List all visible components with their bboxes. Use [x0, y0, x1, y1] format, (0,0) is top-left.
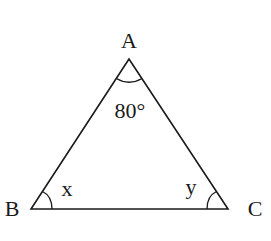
triangle-diagram: A B C 80° x y [0, 0, 271, 241]
vertex-label-c: C [248, 196, 263, 221]
angle-label-b: x [62, 176, 73, 201]
angle-arc-a [117, 79, 143, 83]
angle-label-a: 80° [115, 98, 146, 123]
angle-label-c: y [186, 174, 197, 199]
angle-arc-c [207, 192, 217, 210]
triangle-svg: A B C 80° x y [0, 0, 271, 241]
vertex-label-b: B [5, 196, 20, 221]
angle-arc-b [43, 192, 53, 210]
vertex-label-a: A [121, 28, 137, 53]
